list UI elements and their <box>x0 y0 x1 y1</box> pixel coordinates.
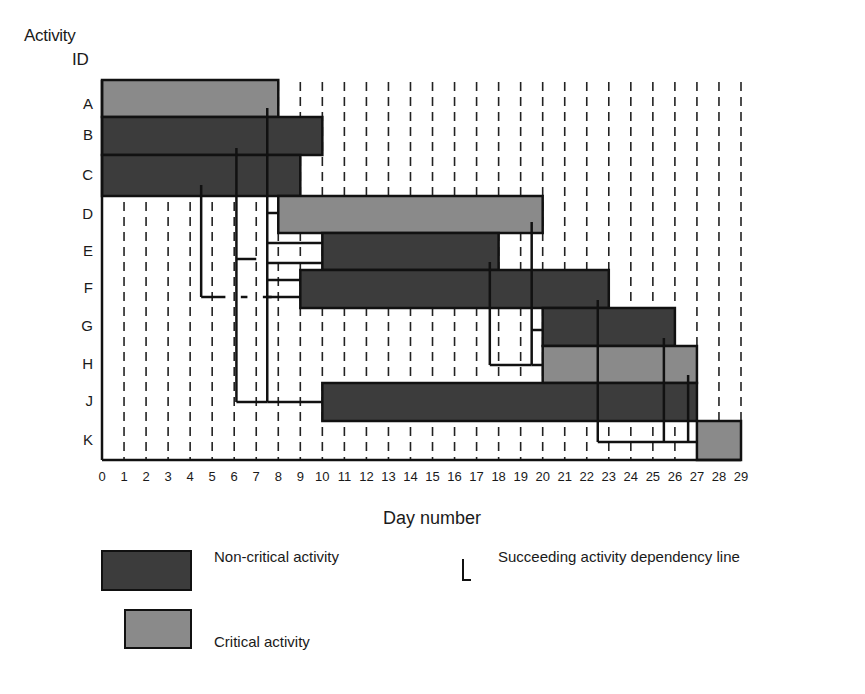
x-tick-0: 0 <box>98 469 105 484</box>
x-tick-25: 25 <box>646 469 660 484</box>
bar-activity-B <box>102 117 322 155</box>
bar-activity-J <box>322 383 697 421</box>
x-tick-17: 17 <box>469 469 483 484</box>
x-tick-27: 27 <box>690 469 704 484</box>
x-tick-12: 12 <box>359 469 373 484</box>
y-axis-title-line1: Activity <box>24 26 75 46</box>
x-tick-19: 19 <box>513 469 527 484</box>
activity-bars <box>102 80 741 460</box>
x-tick-22: 22 <box>580 469 594 484</box>
activity-label-J: J <box>73 392 93 409</box>
activity-label-D: D <box>73 205 93 222</box>
activity-label-G: G <box>73 317 93 334</box>
legend-swatch-critical <box>124 609 192 649</box>
x-tick-13: 13 <box>381 469 395 484</box>
x-tick-26: 26 <box>668 469 682 484</box>
activity-label-K: K <box>73 431 93 448</box>
x-tick-8: 8 <box>275 469 282 484</box>
legend-label-noncritical: Non-critical activity <box>214 548 339 565</box>
activity-label-E: E <box>73 242 93 259</box>
x-tick-16: 16 <box>447 469 461 484</box>
activity-label-F: F <box>73 279 93 296</box>
x-tick-14: 14 <box>403 469 417 484</box>
x-tick-23: 23 <box>602 469 616 484</box>
x-tick-9: 9 <box>297 469 304 484</box>
x-tick-18: 18 <box>491 469 505 484</box>
bar-activity-G <box>543 308 675 346</box>
x-tick-1: 1 <box>120 469 127 484</box>
x-tick-3: 3 <box>164 469 171 484</box>
x-tick-7: 7 <box>253 469 260 484</box>
x-tick-10: 10 <box>315 469 329 484</box>
bar-activity-F <box>300 270 608 308</box>
x-tick-24: 24 <box>624 469 638 484</box>
x-tick-29: 29 <box>734 469 748 484</box>
legend-label-dependency: Succeeding activity dependency line <box>498 548 740 565</box>
activity-label-B: B <box>73 126 93 143</box>
x-tick-5: 5 <box>209 469 216 484</box>
bar-activity-A <box>102 80 278 117</box>
x-axis-title: Day number <box>383 508 481 529</box>
legend-label-critical: Critical activity <box>214 633 310 650</box>
dependency-line-icon <box>462 559 471 581</box>
y-axis-title-line2: ID <box>72 50 88 70</box>
x-tick-4: 4 <box>187 469 194 484</box>
bar-activity-E <box>322 233 498 270</box>
x-tick-11: 11 <box>338 469 352 484</box>
bar-activity-D <box>278 196 542 233</box>
x-tick-2: 2 <box>142 469 149 484</box>
x-tick-20: 20 <box>535 469 549 484</box>
activity-label-H: H <box>73 355 93 372</box>
x-tick-21: 21 <box>557 469 571 484</box>
x-tick-6: 6 <box>231 469 238 484</box>
x-tick-15: 15 <box>425 469 439 484</box>
legend-swatch-noncritical <box>101 550 192 591</box>
activity-label-A: A <box>73 95 93 112</box>
x-tick-28: 28 <box>712 469 726 484</box>
activity-label-C: C <box>73 166 93 183</box>
bar-activity-H <box>543 346 697 383</box>
bar-activity-K <box>697 421 741 460</box>
